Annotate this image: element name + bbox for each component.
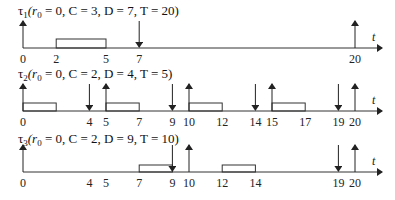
execution-block — [23, 103, 56, 111]
tick-label: 10 — [183, 115, 195, 129]
time-axis-label: t — [372, 30, 376, 44]
task-row-tau1: τ1(r0 = 0, C = 3, D = 7, T = 20) t025720 — [18, 3, 382, 66]
tick-label: 17 — [299, 115, 311, 129]
tick-label: 20 — [349, 115, 361, 129]
tick-label: 20 — [349, 176, 361, 190]
execution-block — [222, 165, 255, 172]
tick-label: 0 — [20, 52, 26, 66]
tick-label: 12 — [216, 176, 228, 190]
execution-block — [106, 103, 139, 111]
tick-label: 5 — [103, 176, 109, 190]
tick-label: 0 — [20, 115, 26, 129]
tick-label: 0 — [20, 176, 26, 190]
task-title-tau1: τ1(r0 = 0, C = 3, D = 7, T = 20) — [18, 3, 179, 20]
tick-label: 2 — [53, 52, 59, 66]
task-row-tau3: τ3(r0 = 0, C = 2, D = 9, T = 10) t045791… — [18, 131, 382, 190]
tick-label: 4 — [86, 115, 92, 129]
schedule-diagram: τ1(r0 = 0, C = 3, D = 7, T = 20) t025720… — [0, 0, 395, 200]
tick-label: 19 — [332, 176, 344, 190]
task-title-tau3: τ3(r0 = 0, C = 2, D = 9, T = 10) — [18, 131, 179, 148]
execution-block — [139, 165, 172, 172]
tick-label: 7 — [136, 176, 142, 190]
execution-block — [272, 103, 305, 111]
tick-label: 10 — [183, 176, 195, 190]
execution-block — [56, 39, 106, 48]
tick-label: 9 — [169, 176, 175, 190]
tick-label: 15 — [266, 115, 278, 129]
tick-label: 7 — [136, 115, 142, 129]
task-row-tau2: τ2(r0 = 0, C = 2, D = 4, T = 5) t0457910… — [18, 66, 382, 129]
tick-label: 5 — [103, 52, 109, 66]
tick-label: 9 — [169, 115, 175, 129]
tick-label: 7 — [136, 52, 142, 66]
task-title-tau2: τ2(r0 = 0, C = 2, D = 4, T = 5) — [18, 66, 172, 83]
execution-block — [189, 103, 222, 111]
tick-label: 4 — [86, 176, 92, 190]
tick-label: 12 — [216, 115, 228, 129]
time-axis-label: t — [372, 154, 376, 168]
tick-label: 19 — [332, 115, 344, 129]
time-axis-label: t — [372, 93, 376, 107]
tick-label: 14 — [249, 115, 261, 129]
tick-label: 5 — [103, 115, 109, 129]
tick-label: 20 — [349, 52, 361, 66]
tick-label: 14 — [249, 176, 261, 190]
